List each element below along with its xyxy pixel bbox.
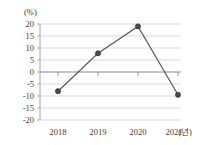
y-axis-unit-label: (%) <box>24 7 37 17</box>
y-label-minus15: -15 <box>23 103 34 113</box>
y-label-20: 20 <box>26 19 35 29</box>
x-label-2020: 2020 <box>130 127 147 137</box>
data-point-2020 <box>135 24 140 29</box>
y-label-15: 15 <box>26 31 35 41</box>
data-markers <box>55 24 180 98</box>
y-label-10: 10 <box>26 43 35 53</box>
x-axis-tick-labels: 2018 2019 2020 2021 <box>50 127 183 137</box>
chart-canvas: (%) 20 15 10 5 0 -5 -10 -15 -20 2018 201… <box>0 0 199 145</box>
y-label-minus10: -10 <box>23 91 34 101</box>
data-series-line <box>58 26 178 94</box>
y-label-0: 0 <box>30 67 34 77</box>
y-axis-tick-labels: 20 15 10 5 0 -5 -10 -15 -20 <box>23 19 34 125</box>
x-label-2019: 2019 <box>90 127 107 137</box>
data-point-2021 <box>175 92 180 97</box>
y-label-minus20: -20 <box>23 115 34 125</box>
x-label-2018: 2018 <box>50 127 67 137</box>
line-chart: (%) 20 15 10 5 0 -5 -10 -15 -20 2018 201… <box>0 0 199 145</box>
y-label-5: 5 <box>30 55 34 65</box>
data-point-2019 <box>95 51 100 56</box>
x-axis-unit-label: (년) <box>178 127 192 137</box>
y-label-minus5: -5 <box>27 79 34 89</box>
data-point-2018 <box>55 89 60 94</box>
